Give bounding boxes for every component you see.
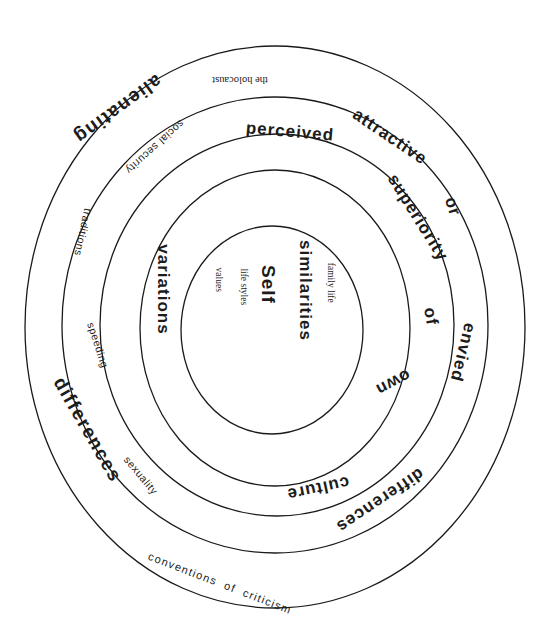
label-of: of [420,302,441,331]
label-similarities: similarities [297,231,314,351]
concentric-rings-diagram [0,0,547,628]
ring-inner [181,226,363,434]
label-family-life: family life [325,253,335,313]
label-values: values [213,260,223,300]
label-variations: variations [155,240,172,340]
label-the-holocaust: the holocaust [200,74,280,85]
label-life-styles: life styles [238,257,248,317]
label-self: Self [259,260,278,310]
